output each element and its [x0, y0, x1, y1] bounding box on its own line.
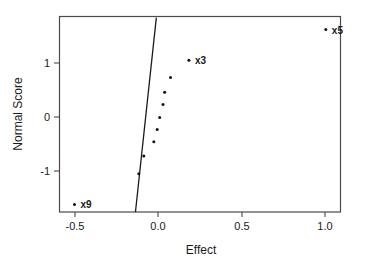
data-point-label-x9: x9 [81, 199, 93, 210]
x-tick-label-0: -0.5 [66, 220, 85, 232]
figure-background [0, 0, 365, 275]
data-point [324, 28, 327, 31]
data-point [158, 116, 161, 119]
data-point [163, 91, 166, 94]
y-tick-label-2: -1 [40, 165, 50, 177]
data-point [73, 203, 76, 206]
x-tick-label-3: 1.0 [317, 220, 332, 232]
data-point-label-x5: x5 [332, 25, 344, 36]
y-tick-label-0: 1 [44, 57, 50, 69]
data-point [162, 103, 165, 106]
data-point [169, 76, 172, 79]
data-point [142, 154, 145, 157]
x-tick-label-1: 0.0 [150, 220, 165, 232]
y-axis-title: Normal Score [11, 77, 25, 151]
data-point [156, 128, 159, 131]
y-tick-label-1: 0 [44, 111, 50, 123]
x-axis-title: Effect [186, 243, 217, 257]
data-point [187, 59, 190, 62]
scatter-plot-canvas: -0.5 0.0 0.5 1.0 1 0 -1 Effect Normal Sc… [0, 0, 365, 275]
x-tick-label-2: 0.5 [234, 220, 249, 232]
normal-probability-plot-figure: -0.5 0.0 0.5 1.0 1 0 -1 Effect Normal Sc… [0, 0, 365, 275]
data-point [137, 172, 140, 175]
data-point [152, 140, 155, 143]
data-point-label-x3: x3 [195, 55, 207, 66]
